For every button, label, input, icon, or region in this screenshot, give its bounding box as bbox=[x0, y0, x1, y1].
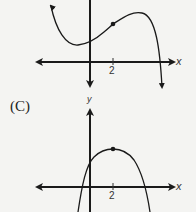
tick-label: 2 bbox=[109, 190, 115, 201]
graph-c bbox=[37, 110, 174, 212]
top-graph bbox=[37, 0, 174, 87]
vertex-point bbox=[111, 147, 116, 152]
tick-label: 2 bbox=[109, 65, 115, 76]
parabola-curve bbox=[78, 149, 150, 212]
x-axis-label: x bbox=[176, 55, 182, 67]
x-axis-label: x bbox=[176, 180, 182, 192]
marked-point bbox=[111, 22, 116, 27]
choice-label-c: (C) bbox=[10, 98, 30, 115]
y-axis-label: y bbox=[87, 94, 92, 104]
function-curve bbox=[51, 6, 162, 87]
